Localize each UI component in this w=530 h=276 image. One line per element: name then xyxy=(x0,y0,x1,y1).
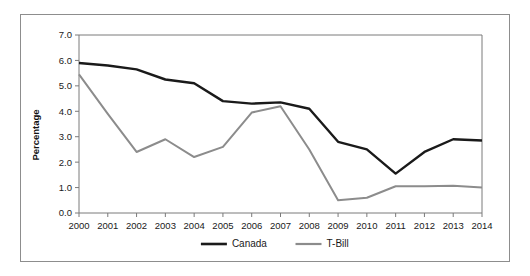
y-tick-label: 4.0 xyxy=(59,106,72,117)
y-tick-label: 1.0 xyxy=(59,182,72,193)
y-tick-label: 3.0 xyxy=(59,131,72,142)
x-tick-label: 2004 xyxy=(184,220,205,231)
legend-label-canada: Canada xyxy=(232,238,267,249)
x-tick-label: 2011 xyxy=(385,220,405,231)
y-tick-label: 2.0 xyxy=(59,157,72,168)
y-tick-label: 5.0 xyxy=(59,80,72,91)
y-axis-title: Percentage xyxy=(30,109,41,160)
x-tick-label: 2006 xyxy=(241,220,262,231)
series-line-canada xyxy=(79,63,482,174)
chart-figure-frame: 0.01.02.03.04.05.06.07.0 200020012002200… xyxy=(20,14,510,262)
x-tick-label: 2001 xyxy=(97,220,118,231)
x-tick-label: 2012 xyxy=(414,220,435,231)
legend-label-t-bill: T-Bill xyxy=(327,238,349,249)
series-group xyxy=(79,63,482,200)
x-tick-label: 2010 xyxy=(356,220,377,231)
x-tick-label: 2002 xyxy=(126,220,147,231)
chart-plot-area: 0.01.02.03.04.05.06.07.0 200020012002200… xyxy=(21,15,511,263)
x-tick-label: 2003 xyxy=(155,220,176,231)
line-chart-svg: 0.01.02.03.04.05.06.07.0 200020012002200… xyxy=(21,15,511,263)
x-tick-label: 2014 xyxy=(471,220,492,231)
series-line-t-bill xyxy=(79,74,482,200)
x-tick-label: 2009 xyxy=(328,220,349,231)
x-tick-labels: 2000200120022003200420052006200720082009… xyxy=(68,220,492,231)
axes-group xyxy=(75,35,482,217)
y-tick-label: 6.0 xyxy=(59,55,72,66)
x-tick-label: 2008 xyxy=(299,220,320,231)
x-tick-label: 2007 xyxy=(270,220,291,231)
chart-legend: CanadaT-Bill xyxy=(201,238,349,249)
y-tick-label: 7.0 xyxy=(59,29,72,40)
y-tick-labels: 0.01.02.03.04.05.06.07.0 xyxy=(59,29,72,218)
y-tick-label: 0.0 xyxy=(59,207,72,218)
x-tick-label: 2000 xyxy=(68,220,89,231)
x-tick-label: 2005 xyxy=(212,220,233,231)
x-tick-label: 2013 xyxy=(443,220,464,231)
y-axis-title-group: Percentage xyxy=(30,109,41,160)
